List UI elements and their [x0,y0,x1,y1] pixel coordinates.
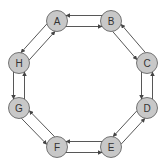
node-c: C [137,53,158,74]
edges-group [14,16,153,153]
edge-b-to-c [113,31,137,59]
node-a: A [47,11,68,32]
node-d: D [137,98,158,119]
node-label: H [15,58,22,69]
node-label: E [108,142,115,153]
edge-h-to-a [29,31,55,60]
ring-diagram: ABCDEFGH [0,0,167,167]
node-label: F [54,142,60,153]
edge-f-to-g [29,111,55,137]
node-g: G [9,98,30,119]
node-label: G [15,103,23,114]
nodes-group: ABCDEFGH [9,11,158,158]
edge-d-to-e [113,111,137,137]
node-f: F [47,137,68,158]
node-h: H [9,53,30,74]
node-label: A [54,16,61,27]
node-e: E [101,137,122,158]
diagram-canvas: ABCDEFGH [0,0,167,167]
edge-c-to-b [121,24,145,52]
edge-e-to-d [121,118,145,144]
edge-g-to-f [21,118,47,144]
node-label: D [143,103,150,114]
node-label: C [143,58,150,69]
node-b: B [101,11,122,32]
edge-a-to-h [21,24,47,53]
node-label: B [108,16,115,27]
